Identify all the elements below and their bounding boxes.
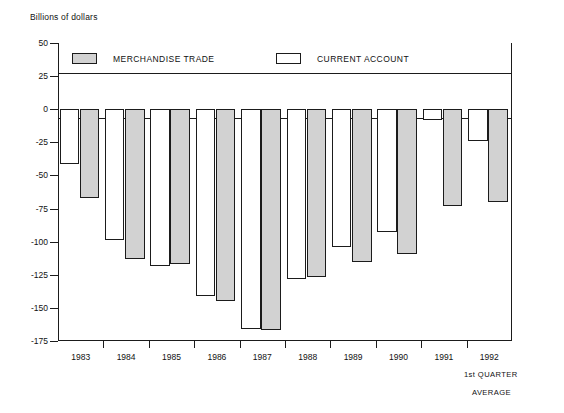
y-axis-tick — [50, 175, 58, 176]
y-axis-tick — [50, 76, 58, 77]
y-axis-tick-label: 25 — [14, 71, 48, 81]
x-axis-tick-label: 1988 — [298, 352, 317, 362]
x-axis-tick-label: 1984 — [117, 352, 136, 362]
bar-merchandise-trade — [488, 109, 508, 202]
bar-current-account — [423, 109, 443, 120]
y-axis-tick — [50, 109, 58, 110]
bar-merchandise-trade — [397, 109, 417, 253]
bar-current-account — [468, 109, 488, 141]
bar-merchandise-trade — [170, 109, 190, 264]
y-axis-tick-label: -50 — [14, 170, 48, 180]
y-axis-tick — [50, 341, 58, 342]
bar-merchandise-trade — [216, 109, 236, 301]
y-axis-tick — [50, 242, 58, 243]
note-average: AVERAGE — [472, 388, 511, 397]
bar-current-account — [287, 109, 307, 279]
bar-current-account — [377, 109, 397, 232]
bar-merchandise-trade — [80, 109, 100, 198]
x-axis-tick — [330, 341, 331, 348]
y-axis-tick — [50, 209, 58, 210]
legend-swatch-current-account — [276, 53, 301, 64]
x-axis-tick-label: 1985 — [162, 352, 181, 362]
bar-merchandise-trade — [261, 109, 281, 330]
note-first-quarter: 1st QUARTER — [464, 370, 518, 379]
bar-merchandise-trade — [125, 109, 145, 259]
chart-legend: MERCHANDISE TRADE CURRENT ACCOUNT — [58, 43, 512, 74]
x-axis-tick — [467, 341, 468, 348]
x-axis-tick-label: 1991 — [434, 352, 453, 362]
y-axis-tick-label: -150 — [14, 303, 48, 313]
bar-current-account — [105, 109, 125, 240]
x-axis-tick-label: 1990 — [389, 352, 408, 362]
legend-item-merchandise-trade: MERCHANDISE TRADE — [72, 53, 214, 64]
x-axis-tick-label: 1992 — [480, 352, 499, 362]
x-axis-tick — [240, 341, 241, 348]
x-axis-tick — [103, 341, 104, 348]
y-axis-tick-label: -125 — [14, 270, 48, 280]
x-axis-tick-label: 1989 — [344, 352, 363, 362]
y-axis-tick-label: -75 — [14, 204, 48, 214]
bar-merchandise-trade — [443, 109, 463, 206]
x-axis-tick — [421, 341, 422, 348]
x-axis-tick — [376, 341, 377, 348]
y-axis-tick-label: -25 — [14, 137, 48, 147]
y-axis-tick — [50, 43, 58, 44]
x-axis-tick — [194, 341, 195, 348]
legend-item-current-account: CURRENT ACCOUNT — [276, 53, 409, 64]
legend-label-current-account: CURRENT ACCOUNT — [317, 54, 409, 64]
bar-current-account — [332, 109, 352, 247]
x-axis-tick — [285, 341, 286, 348]
y-axis-tick-label: 50 — [14, 38, 48, 48]
y-axis-title: Billions of dollars — [30, 12, 98, 22]
bar-merchandise-trade — [307, 109, 327, 277]
y-axis-tick-label: -175 — [14, 336, 48, 346]
bar-current-account — [241, 109, 261, 329]
y-axis-tick — [50, 275, 58, 276]
x-axis-tick-label: 1986 — [207, 352, 226, 362]
x-axis-tick-label: 1983 — [71, 352, 90, 362]
x-axis-tick-label: 1987 — [253, 352, 272, 362]
bar-merchandise-trade — [352, 109, 372, 261]
x-axis-tick — [149, 341, 150, 348]
chart-figure: Billions of dollars 50250-25-50-75-100-1… — [0, 0, 564, 413]
bar-current-account — [196, 109, 216, 296]
y-axis-tick — [50, 308, 58, 309]
bar-current-account — [150, 109, 170, 265]
bar-current-account — [60, 109, 80, 163]
legend-swatch-merchandise-trade — [72, 53, 97, 64]
y-axis-tick-label: -100 — [14, 237, 48, 247]
y-axis-tick-label: 0 — [14, 104, 48, 114]
y-axis-tick — [50, 142, 58, 143]
legend-label-merchandise-trade: MERCHANDISE TRADE — [113, 54, 214, 64]
